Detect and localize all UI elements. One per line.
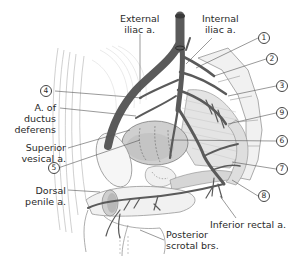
- callout-5: 5: [48, 162, 60, 174]
- label-line: Internal: [202, 13, 239, 24]
- label-line: iliac a.: [120, 24, 159, 35]
- label-posterior-scrotal: Posterior scrotal brs.: [166, 229, 219, 251]
- pelvic-arteries-diagram: External iliac a. Internal iliac a. A. o…: [0, 0, 304, 257]
- label-line: iliac a.: [202, 24, 239, 35]
- label-line: ductus: [6, 113, 56, 124]
- vessel-cut-end: [175, 14, 185, 19]
- callout-8: 8: [258, 190, 270, 202]
- callout-9: 9: [276, 107, 288, 119]
- label-line: scrotal brs.: [166, 240, 219, 251]
- label-ductus-deferens: A. of ductus deferens: [6, 102, 56, 135]
- label-dorsal-penile: Dorsal penile a.: [4, 185, 66, 207]
- callout-1: 1: [258, 32, 270, 44]
- callout-6: 6: [276, 135, 288, 147]
- callout-7: 7: [276, 163, 288, 175]
- callout-3: 3: [276, 80, 288, 92]
- label-line: A. of: [6, 102, 56, 113]
- label-line: deferens: [6, 124, 56, 135]
- leader-posterior-scrotal: [140, 230, 164, 240]
- label-internal-iliac: Internal iliac a.: [202, 13, 239, 35]
- label-line: Dorsal: [4, 185, 66, 196]
- callout-2: 2: [266, 53, 278, 65]
- label-line: Posterior: [166, 229, 219, 240]
- leader-8: [232, 180, 258, 196]
- label-line: Superior: [4, 142, 66, 153]
- callout-4: 4: [40, 85, 52, 97]
- leader-inferior-rectal: [220, 196, 236, 218]
- leader-dorsal-penile: [68, 190, 100, 192]
- label-line: penile a.: [4, 196, 66, 207]
- label-line: External: [120, 13, 159, 24]
- scrotum-outline: [84, 210, 165, 256]
- label-superior-vesical: Superior vesical a.: [4, 142, 66, 164]
- label-inferior-rectal: Inferior rectal a.: [210, 219, 286, 230]
- label-external-iliac: External iliac a.: [120, 13, 159, 35]
